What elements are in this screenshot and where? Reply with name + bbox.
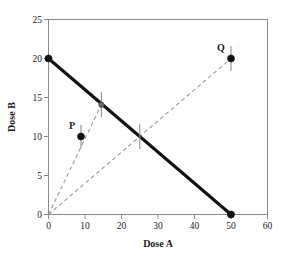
x-tick-label-40: 40: [190, 221, 200, 231]
chart-canvas: 0 5 10 15 20 25 0 10 20 30 40 50 60 Dose…: [0, 0, 290, 257]
marker-point-p: [78, 133, 85, 140]
x-tick-label-20: 20: [117, 221, 127, 231]
y-tick-label-15: 15: [33, 93, 43, 103]
label-point-p: P: [69, 120, 75, 131]
isobole-endpoint-dose-b: [45, 55, 52, 62]
y-tick-label-25: 25: [33, 15, 43, 25]
y-tick-label-20: 20: [33, 54, 43, 64]
y-tick-label-5: 5: [37, 171, 42, 181]
x-tick-label-0: 0: [46, 221, 51, 231]
y-axis-ticks: [44, 20, 49, 215]
label-point-q: Q: [217, 42, 225, 53]
isobole-endpoint-dose-a: [227, 211, 234, 218]
y-tick-label-10: 10: [33, 132, 43, 142]
x-tick-label-60: 60: [263, 221, 273, 231]
plot-frame: [49, 20, 268, 215]
x-tick-label-10: 10: [80, 221, 90, 231]
y-axis-title: Dose B: [6, 102, 17, 132]
x-axis-title: Dose A: [143, 238, 174, 249]
x-tick-label-50: 50: [226, 221, 236, 231]
isobologram-figure: 0 5 10 15 20 25 0 10 20 30 40 50 60 Dose…: [0, 0, 290, 257]
marker-isobole-upper: [99, 102, 104, 107]
y-tick-label-0: 0: [37, 210, 42, 220]
marker-point-q: [228, 55, 235, 62]
x-tick-label-30: 30: [153, 221, 163, 231]
